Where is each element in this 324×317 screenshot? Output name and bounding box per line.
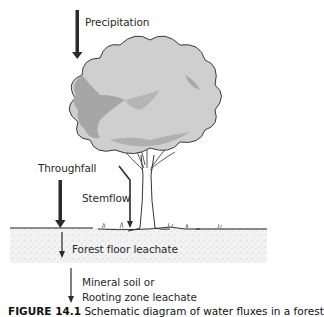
- forest-floor-leachate-label: Forest floor leachate: [72, 244, 178, 255]
- precipitation-arrow: [72, 10, 83, 59]
- throughfall-arrow: [55, 180, 66, 228]
- figure-number: FIGURE 14.1: [8, 305, 81, 317]
- figure-caption: FIGURE 14.1 Schematic diagram of water f…: [8, 305, 324, 317]
- stemflow-label: Stemflow: [82, 193, 130, 204]
- caption-text: Schematic diagram of water fluxes in a f…: [84, 305, 323, 317]
- rooting-zone-leachate-label: Rooting zone leachate: [82, 292, 197, 303]
- throughfall-label: Throughfall: [38, 163, 96, 174]
- precipitation-label: Precipitation: [85, 17, 149, 28]
- mineral-soil-leachate-arrow: [68, 268, 74, 303]
- mineral-soil-label: Mineral soil or: [82, 277, 154, 288]
- tree-canopy: [69, 36, 221, 154]
